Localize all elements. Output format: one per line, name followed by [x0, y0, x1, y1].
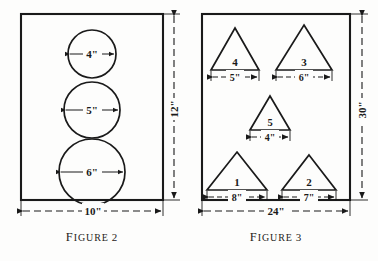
- figure-2-circle-6in-label: 6": [86, 166, 98, 178]
- figure-3-triangle-5-id: 5: [267, 117, 272, 128]
- figure-3-drawing: 4 5" 3 6" 5 4": [190, 0, 378, 225]
- figure-2-caption: FIGURE2: [21, 230, 163, 245]
- figure-3-triangle-4-id: 4: [232, 56, 238, 68]
- figure-2-width-label: 10": [84, 205, 101, 217]
- figure-2-circle-5in: 5": [64, 82, 120, 138]
- figure-2-circle-5in-label: 5": [86, 104, 98, 116]
- figure-3-triangle-5-base-label: 4": [265, 132, 276, 143]
- figure-3-height-label: 30": [356, 101, 368, 118]
- figure-2-height-label: 12": [168, 100, 180, 117]
- figure-3-triangle-3: 3 6": [276, 25, 332, 84]
- figure-3-triangle-2-base-label: 7": [304, 192, 315, 203]
- figure-3-triangle-2-id: 2: [306, 176, 312, 188]
- figure-3-height-dimension: 30": [350, 14, 370, 200]
- figure-2-circle-6in: 6": [59, 139, 125, 205]
- figure-3-triangle-3-base-label: 6": [299, 72, 310, 83]
- figure-3-triangle-4: 4 5": [211, 28, 259, 84]
- figure-2-circle-4in: 4": [68, 30, 116, 78]
- figure-2-width-dimension: 10": [21, 200, 163, 218]
- figure-2-drawing: 4" 5" 6" 10" 1: [0, 0, 190, 225]
- figure-3-triangle-1-base-label: 8": [232, 192, 243, 203]
- figure-3-caption-initial: F: [250, 230, 258, 244]
- figure-3-caption-rest: IGURE: [258, 232, 293, 243]
- figure-2-caption-number: 2: [112, 231, 118, 243]
- figure-plate-page: 4" 5" 6" 10" 1: [0, 0, 378, 261]
- figure-3-caption: FIGURE3: [202, 230, 350, 245]
- figure-3-width-label: 24": [267, 205, 284, 217]
- figure-2-circle-4in-label: 4": [86, 48, 98, 60]
- figure-3-triangle-5: 5 4": [250, 96, 290, 144]
- figure-3-width-dimension: 24": [202, 200, 350, 218]
- figure-2-height-dimension: 12": [163, 14, 182, 200]
- figure-3-triangle-2: 2 7": [282, 155, 336, 204]
- figure-2-caption-rest: IGURE: [74, 232, 109, 243]
- figure-3-triangle-1-id: 1: [234, 176, 240, 188]
- figure-3-triangle-1: 1 8": [207, 152, 267, 204]
- figure-2-caption-initial: F: [66, 230, 74, 244]
- figure-3-caption-number: 3: [296, 231, 302, 243]
- figure-3-triangle-4-base-label: 5": [230, 72, 241, 83]
- figure-3-triangle-3-id: 3: [301, 56, 307, 68]
